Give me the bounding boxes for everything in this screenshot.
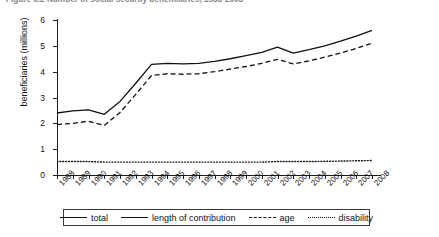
legend-label-length-of-contribution: length of contribution <box>152 213 236 223</box>
figure-title-text: Figure 3.2 Number of social security ben… <box>6 0 436 5</box>
figure-title: Figure 3.2 Number of social security ben… <box>6 0 436 5</box>
legend-item-disability[interactable]: disability <box>308 213 374 223</box>
y-tick-label-4: 4 <box>40 68 45 77</box>
legend-label-disability: disability <box>339 213 374 223</box>
legend-label-age: age <box>280 213 295 223</box>
legend-label-total: total <box>91 213 108 223</box>
y-axis-labels: 0123456 <box>0 0 49 237</box>
y-tick-label-0: 0 <box>40 171 45 180</box>
line-dotted-icon <box>308 215 335 221</box>
series-lines <box>57 20 380 175</box>
legend-item-total[interactable]: total <box>60 213 108 223</box>
line-dashed-icon <box>249 215 276 221</box>
plot-area <box>57 20 380 175</box>
y-tick-label-5: 5 <box>40 42 45 51</box>
y-tick-label-2: 2 <box>40 119 45 128</box>
line-solid-icon <box>121 215 148 221</box>
legend: totallength of contributionagedisability <box>63 209 370 226</box>
y-tick-label-6: 6 <box>40 16 45 25</box>
x-tick-1988 <box>57 175 58 179</box>
y-tick-label-3: 3 <box>40 94 45 103</box>
series-line-disability <box>57 161 372 163</box>
legend-item-length-of-contribution[interactable]: length of contribution <box>121 213 236 223</box>
series-line-age <box>57 43 372 125</box>
figure-container: Figure 3.2 Number of social security ben… <box>0 0 439 237</box>
line-solid-icon <box>60 215 87 221</box>
y-tick-label-1: 1 <box>40 145 45 154</box>
legend-item-age[interactable]: age <box>249 213 295 223</box>
